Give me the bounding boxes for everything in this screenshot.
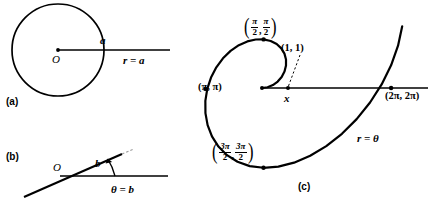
open-paren-three-half-pi: (: [212, 143, 218, 162]
point-dot-half-pi: [261, 37, 265, 41]
pole-dot-a: [56, 48, 60, 52]
origin-label-b: O: [53, 162, 61, 173]
dashed-leader-1-1: [289, 55, 301, 86]
origin-label-a: O: [52, 54, 60, 65]
numerator: π: [251, 17, 258, 28]
point-label-three-half-pi: ( 3π 2 , 3π 2 ): [211, 142, 255, 162]
comma-three-half-pi: ,: [232, 151, 235, 162]
panel-tag-b: (b): [6, 152, 19, 162]
polar-graphs-figure: O a r = a (a) O b θ = b (b) ( π 2 , π 2 …: [0, 0, 431, 212]
point-dot-three-half-pi: [261, 166, 265, 170]
equation-label-a: r = a: [123, 55, 145, 66]
panel-tag-c: (c): [298, 182, 310, 192]
panel-a-graphics: [12, 4, 170, 96]
close-paren-half-pi: ): [271, 18, 277, 37]
figure-drawing-layer: [0, 0, 431, 212]
close-paren-three-half-pi: ): [248, 143, 254, 162]
open-paren-half-pi: (: [244, 18, 250, 37]
line-extension-dashed: [122, 149, 134, 154]
fraction-three-half-pi-first: 3π 2: [219, 142, 230, 162]
fraction-half-pi-first: π 2: [251, 17, 258, 37]
point-label-pi: (π, π): [198, 82, 222, 93]
denominator: 2: [264, 28, 269, 38]
point-label-two-pi: (2π, 2π): [385, 91, 419, 102]
denominator: 2: [252, 28, 257, 38]
denominator: 2: [223, 153, 228, 163]
fraction-half-pi-second: π 2: [263, 17, 270, 37]
point-dot-1-1: [286, 86, 290, 90]
denominator: 2: [239, 153, 244, 163]
numerator: π: [263, 17, 270, 28]
radius-tick-label-a: a: [100, 35, 106, 46]
point-label-half-pi: ( π 2 , π 2 ): [243, 17, 278, 37]
equation-label-c: r = θ: [357, 133, 379, 144]
angle-label-b: b: [95, 158, 101, 169]
equation-label-b: θ = b: [111, 184, 134, 195]
fraction-three-half-pi-second: 3π 2: [235, 142, 246, 162]
numerator: 3π: [235, 142, 246, 153]
panel-tag-a: (a): [6, 97, 18, 107]
numerator: 3π: [219, 142, 230, 153]
point-label-1-1: (1, 1): [281, 43, 304, 54]
comma-half-pi: ,: [259, 26, 262, 37]
axis-variable-label-x: x: [284, 93, 290, 104]
